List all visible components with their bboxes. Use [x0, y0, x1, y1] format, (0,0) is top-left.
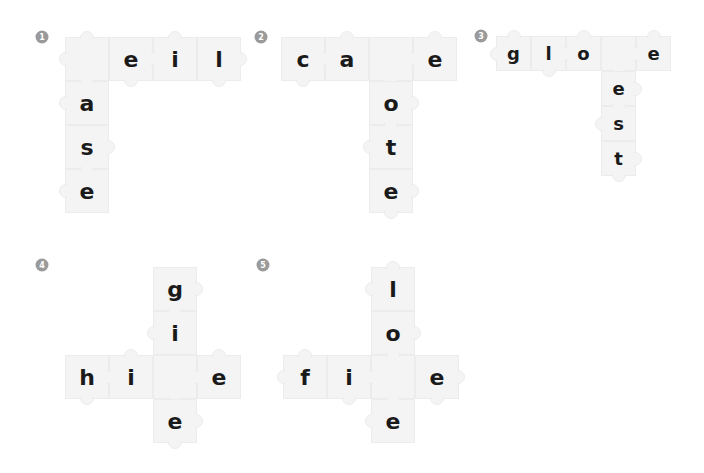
- puzzle-piece: e: [369, 169, 413, 213]
- puzzle-piece: h: [65, 355, 109, 399]
- puzzle-piece: e: [65, 169, 109, 213]
- puzzle-piece: e: [371, 399, 415, 443]
- puzzle-piece: g: [496, 36, 531, 71]
- puzzle-piece: s: [65, 125, 109, 169]
- piece-letter: l: [532, 37, 565, 70]
- piece-letter: [370, 38, 412, 80]
- puzzle-piece: o: [566, 36, 601, 71]
- piece-letter: t: [602, 142, 635, 175]
- puzzle-piece: o: [371, 311, 415, 355]
- piece-letter: g: [497, 37, 530, 70]
- puzzle-piece: l: [197, 37, 241, 81]
- piece-letter: h: [66, 356, 108, 398]
- puzzle-piece: a: [65, 81, 109, 125]
- piece-letter: f: [284, 356, 326, 398]
- piece-letter: e: [416, 356, 458, 398]
- piece-letter: e: [372, 400, 414, 442]
- piece-letter: l: [372, 268, 414, 310]
- puzzle-piece: e: [415, 355, 459, 399]
- puzzle-piece: e: [153, 399, 197, 443]
- piece-letter: g: [154, 268, 196, 310]
- puzzle-piece: f: [283, 355, 327, 399]
- puzzle-piece: e: [197, 355, 241, 399]
- piece-letter: o: [567, 37, 600, 70]
- puzzle-piece: e: [109, 37, 153, 81]
- piece-letter: [154, 356, 196, 398]
- piece-letter: s: [602, 107, 635, 140]
- puzzle-piece: g: [153, 267, 197, 311]
- puzzle-piece: a: [325, 37, 369, 81]
- piece-letter: l: [198, 38, 240, 80]
- puzzle-piece-blank[interactable]: [371, 355, 415, 399]
- piece-letter: c: [282, 38, 324, 80]
- piece-letter: o: [372, 312, 414, 354]
- piece-letter: i: [328, 356, 370, 398]
- piece-letter: e: [602, 72, 635, 105]
- puzzle-piece: t: [601, 141, 636, 176]
- puzzle-piece-blank[interactable]: [601, 36, 636, 71]
- piece-letter: [66, 38, 108, 80]
- piece-letter: e: [198, 356, 240, 398]
- piece-letter: e: [637, 37, 670, 70]
- piece-letter: a: [326, 38, 368, 80]
- puzzle-piece: i: [327, 355, 371, 399]
- piece-letter: [602, 37, 635, 70]
- piece-letter: e: [110, 38, 152, 80]
- piece-letter: i: [154, 312, 196, 354]
- piece-letter: s: [66, 126, 108, 168]
- piece-letter: a: [66, 82, 108, 124]
- puzzle-piece: s: [601, 106, 636, 141]
- puzzle-piece: t: [369, 125, 413, 169]
- piece-letter: i: [110, 356, 152, 398]
- piece-letter: t: [370, 126, 412, 168]
- puzzle-piece: e: [413, 37, 457, 81]
- piece-letter: e: [66, 170, 108, 212]
- piece-letter: [372, 356, 414, 398]
- puzzle-piece-blank[interactable]: [369, 37, 413, 81]
- puzzle-piece: i: [153, 311, 197, 355]
- piece-letter: e: [414, 38, 456, 80]
- piece-letter: i: [154, 38, 196, 80]
- puzzle-piece: i: [109, 355, 153, 399]
- puzzle-piece: e: [601, 71, 636, 106]
- puzzle-piece: l: [531, 36, 566, 71]
- piece-letter: e: [370, 170, 412, 212]
- piece-letter: e: [154, 400, 196, 442]
- puzzle-piece-blank[interactable]: [153, 355, 197, 399]
- puzzle-piece: o: [369, 81, 413, 125]
- puzzle-piece: l: [371, 267, 415, 311]
- puzzle-piece: e: [636, 36, 671, 71]
- puzzle-piece-blank[interactable]: [65, 37, 109, 81]
- puzzle-piece: i: [153, 37, 197, 81]
- puzzle-number-badge: 5: [257, 259, 270, 272]
- puzzle-piece: c: [281, 37, 325, 81]
- piece-letter: o: [370, 82, 412, 124]
